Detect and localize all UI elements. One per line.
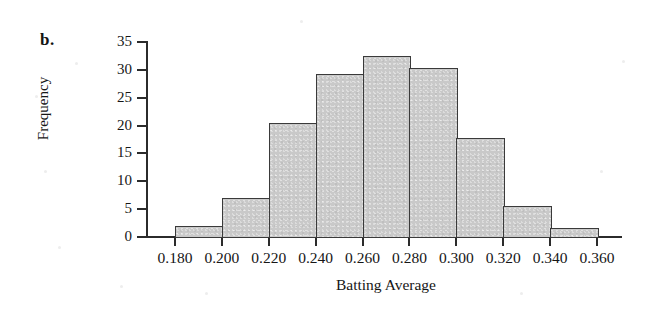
x-axis-tick: [315, 238, 317, 246]
plot-area: 05101520253035 0.1800.2000.2200.2400.260…: [0, 0, 645, 309]
x-axis-tick: [174, 238, 176, 246]
histogram-bar: [363, 56, 411, 238]
x-axis-tick: [362, 238, 364, 246]
x-axis-tick: [596, 238, 598, 246]
x-axis-tick: [408, 238, 410, 246]
histogram-bar: [175, 226, 223, 238]
y-axis-tick: [137, 208, 146, 210]
histogram-bar: [409, 68, 457, 238]
histogram-bar: [550, 228, 598, 238]
y-axis-tick-label: 30: [98, 62, 132, 77]
y-axis-line: [146, 41, 148, 238]
scan-artifact: [205, 292, 208, 295]
y-axis-tick-label: 25: [98, 90, 132, 105]
scan-artifact: [600, 170, 603, 173]
y-axis-tick: [137, 236, 146, 238]
x-axis-tick: [268, 238, 270, 246]
histogram-bar: [316, 74, 364, 238]
x-axis-title: Batting Average: [175, 276, 597, 294]
histogram-figure: b. Frequency 05101520253035 0.1800.2000.…: [0, 0, 645, 309]
y-axis-tick-label: 5: [98, 201, 132, 216]
histogram-bar: [503, 206, 551, 238]
x-axis-tick: [502, 238, 504, 246]
histogram-bar: [222, 198, 270, 238]
x-axis-tick: [455, 238, 457, 246]
y-axis-tick-label: 20: [98, 118, 132, 133]
y-axis-tick: [137, 41, 146, 43]
scan-artifact: [35, 95, 38, 98]
y-axis-tick: [137, 125, 146, 127]
scan-artifact: [622, 60, 625, 63]
y-axis-tick: [137, 152, 146, 154]
histogram-bar: [456, 138, 504, 238]
y-axis-tick-label: 10: [98, 173, 132, 188]
y-axis-tick: [137, 69, 146, 71]
x-axis-tick-label: 0.360: [567, 249, 627, 266]
scan-artifact: [300, 20, 303, 23]
scan-artifact: [520, 292, 523, 295]
scan-artifact: [58, 246, 61, 249]
histogram-bar: [269, 123, 317, 238]
y-axis-tick-label: 0: [98, 229, 132, 244]
scan-artifact: [44, 170, 47, 173]
x-axis-tick: [549, 238, 551, 246]
y-axis-tick-label: 35: [98, 34, 132, 49]
scan-artifact: [75, 62, 78, 65]
y-axis-tick: [137, 180, 146, 182]
x-axis-tick: [221, 238, 223, 246]
y-axis-tick: [137, 97, 146, 99]
scan-artifact: [120, 285, 123, 288]
y-axis-tick-label: 15: [98, 145, 132, 160]
